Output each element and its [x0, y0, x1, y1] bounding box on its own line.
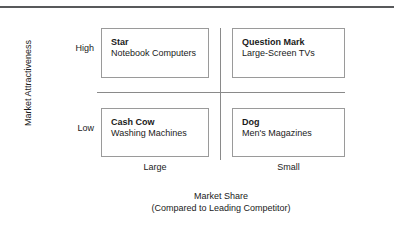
- quadrant-question-mark: Question Mark Large-Screen TVs: [232, 28, 345, 78]
- quadrant-dog: Dog Men's Magazines: [232, 108, 345, 157]
- bcg-matrix-figure: Market Attractiveness High Low Star Note…: [0, 0, 394, 232]
- x-axis-title-main: Market Share: [97, 190, 345, 202]
- quadrant-star-example: Notebook Computers: [111, 48, 208, 59]
- quadrant-cash-cow: Cash Cow Washing Machines: [101, 108, 209, 157]
- x-axis-tick-small: Small: [232, 162, 345, 172]
- horizontal-axis-divider: [97, 92, 345, 93]
- quadrant-dog-example: Men's Magazines: [242, 128, 344, 139]
- vertical-axis-divider: [220, 28, 221, 160]
- quadrant-cash-cow-example: Washing Machines: [111, 128, 208, 139]
- x-axis-title: Market Share (Compared to Leading Compet…: [97, 190, 345, 214]
- x-axis-tick-large: Large: [101, 162, 209, 172]
- y-axis-title: Market Attractiveness: [23, 13, 33, 153]
- top-rule-divider: [0, 6, 394, 8]
- quadrant-dog-title: Dog: [242, 117, 344, 128]
- quadrant-cash-cow-title: Cash Cow: [111, 117, 208, 128]
- quadrant-star: Star Notebook Computers: [101, 28, 209, 78]
- x-axis-title-sub: (Compared to Leading Competitor): [97, 202, 345, 214]
- quadrant-question-mark-example: Large-Screen TVs: [242, 48, 344, 59]
- quadrant-question-mark-title: Question Mark: [242, 37, 344, 48]
- y-axis-tick-low: Low: [62, 123, 94, 133]
- y-axis-tick-high: High: [62, 43, 94, 53]
- quadrant-star-title: Star: [111, 37, 208, 48]
